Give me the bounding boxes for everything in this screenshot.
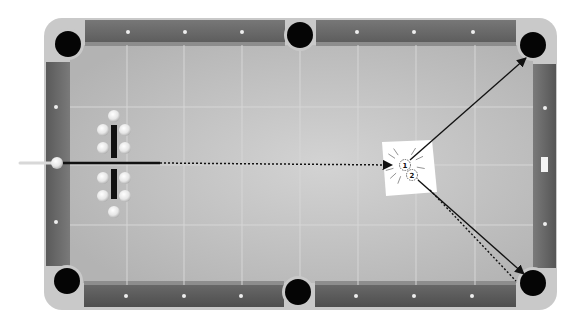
- cushion-top: [85, 42, 285, 46]
- rack-bar: [111, 169, 117, 199]
- object-ball-1: 1: [400, 160, 411, 171]
- cue-ball: [51, 157, 63, 169]
- diamond-icon: [470, 294, 474, 298]
- diamond-icon: [182, 294, 186, 298]
- rail-top-right: [316, 20, 516, 45]
- diamond-icon: [54, 105, 58, 109]
- pocket-top-middle: [287, 22, 313, 48]
- diamond-icon: [412, 30, 416, 34]
- rack-ball: [108, 110, 120, 122]
- diamond-icon: [543, 222, 547, 226]
- diamond-icon: [543, 106, 547, 110]
- rack-ball: [97, 124, 109, 136]
- rack-ball: [119, 172, 131, 184]
- rack-bar: [111, 125, 117, 158]
- rack-ball: [119, 124, 131, 136]
- rack-ball: [97, 172, 109, 184]
- diamond-icon: [239, 294, 243, 298]
- rack-ball: [119, 142, 131, 154]
- pocket-top-left: [55, 31, 81, 57]
- rack-ball: [119, 190, 131, 202]
- diamond-icon: [124, 294, 128, 298]
- diamond-icon: [354, 294, 358, 298]
- diamond-icon: [412, 294, 416, 298]
- diamond-icon: [240, 30, 244, 34]
- rack-ball: [108, 206, 120, 218]
- ball-number: 1: [403, 162, 408, 170]
- diamond-icon: [355, 30, 359, 34]
- diamond-icon: [471, 30, 475, 34]
- rack-ball: [97, 190, 109, 202]
- object-ball-2: 2: [407, 170, 418, 181]
- diamond-icon: [54, 220, 58, 224]
- diamond-icon: [183, 30, 187, 34]
- diamond-icon: [126, 30, 130, 34]
- rack-ball: [97, 142, 109, 154]
- pool-table-diagram: 12: [0, 0, 581, 324]
- ball-number: 2: [410, 172, 415, 180]
- table-canvas: 12: [0, 0, 581, 324]
- pocket-top-right: [520, 32, 546, 58]
- right-rail-marker: [541, 157, 548, 172]
- pocket-bottom-left: [54, 268, 80, 294]
- pocket-bottom-middle: [285, 279, 311, 305]
